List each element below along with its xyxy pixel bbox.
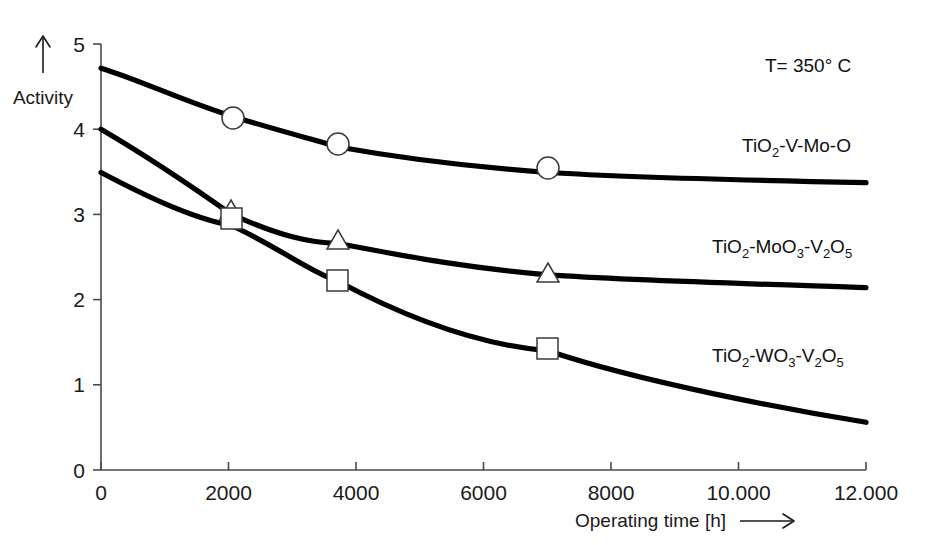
data-point-marker-square [327, 270, 348, 291]
data-point-marker-triangle [327, 230, 349, 249]
y-tick-label-4: 4 [73, 118, 85, 141]
x-tick-label-12000: 12.000 [834, 481, 898, 504]
series-curve-tio2-v-mo-o [101, 68, 866, 183]
series-2-part-2: -MoO [749, 236, 797, 257]
x-tick-label-2000: 2000 [205, 481, 252, 504]
series-3-subscript-4: 5 [836, 355, 843, 370]
series-3-part-2: -WO [749, 345, 788, 366]
series-3-subscript-2: 3 [788, 355, 795, 370]
series-1-part-2: -V-Mo-O [779, 135, 851, 156]
series-2-subscript-4: 5 [845, 246, 852, 261]
series-3-part-3: -V [795, 345, 814, 366]
y-tick-label-2: 2 [73, 288, 85, 311]
y-tick-label-5: 5 [73, 33, 85, 56]
series-label-tio2-wo3-v2o5: TiO2-WO3-V2O5 [712, 345, 844, 370]
x-axis-arrow-icon [740, 514, 794, 528]
y-tick-label-1: 1 [73, 373, 85, 396]
x-tick-label-10000: 10.000 [706, 481, 770, 504]
y-axis-ticks [93, 44, 101, 470]
series-2-part-4: O [830, 236, 845, 257]
y-tick-label-3: 3 [73, 203, 85, 226]
series-2-subscript-1: 2 [742, 246, 749, 261]
x-tick-label-4000: 4000 [333, 481, 380, 504]
data-point-marker-circle [222, 107, 244, 129]
y-axis-title: Activity [13, 87, 74, 108]
temperature-annotation: T= 350° C [765, 55, 851, 76]
x-tick-label-0: 0 [95, 481, 107, 504]
data-point-marker-square [221, 208, 242, 229]
data-point-marker-circle [537, 157, 559, 179]
y-tick-label-0: 0 [73, 459, 85, 482]
series-curve-tio2-wo3-v2o5 [101, 173, 866, 423]
series-2-part-3: -V [804, 236, 823, 257]
series-2-subscript-2: 3 [797, 246, 804, 261]
x-tick-label-6000: 6000 [460, 481, 507, 504]
activity-vs-operating-time-chart: 5 4 3 2 1 0 Activity 0 2000 4000 6000 80… [0, 0, 926, 545]
series-3-subscript-1: 2 [742, 355, 749, 370]
chart-container: 5 4 3 2 1 0 Activity 0 2000 4000 6000 80… [0, 0, 926, 545]
y-axis-arrow-icon [36, 36, 50, 73]
series-2-part-1: TiO [712, 236, 742, 257]
x-tick-label-8000: 8000 [588, 481, 635, 504]
series-3-part-1: TiO [712, 345, 742, 366]
series-3-part-4: O [822, 345, 837, 366]
x-axis-title: Operating time [h] [575, 510, 726, 531]
series-1-subscript-1: 2 [772, 145, 779, 160]
series-label-tio2-v-mo-o: TiO2-V-Mo-O [742, 135, 851, 160]
x-axis-ticks [101, 462, 866, 470]
data-point-marker-square [537, 338, 558, 359]
series-1-part-1: TiO [742, 135, 772, 156]
data-point-marker-circle [327, 133, 349, 155]
series-label-tio2-moo3-v2o5: TiO2-MoO3-V2O5 [712, 236, 852, 261]
series-2-subscript-3: 2 [823, 246, 830, 261]
series-3-subscript-3: 2 [814, 355, 821, 370]
